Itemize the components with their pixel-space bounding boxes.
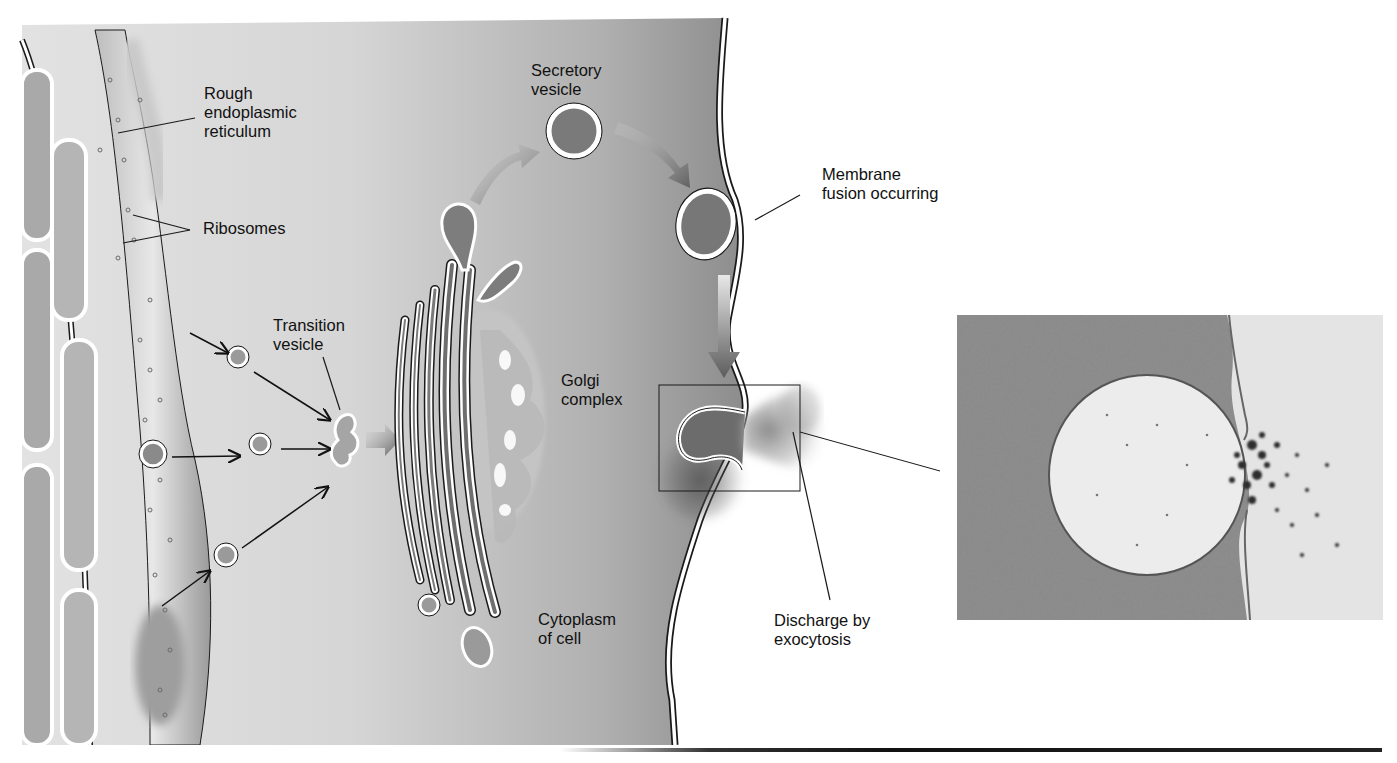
label-cytoplasm: Cytoplasm of cell: [538, 610, 616, 648]
figure: Rough endoplasmic reticulum Ribosomes Tr…: [0, 0, 1397, 763]
label-exocytosis: Discharge by exocytosis: [774, 611, 870, 649]
label-secretory-vesicle: Secretory vesicle: [531, 61, 602, 99]
label-ribosomes: Ribosomes: [203, 219, 286, 238]
label-membrane-fusion: Membrane fusion occurring: [822, 165, 938, 203]
label-rough-er: Rough endoplasmic reticulum: [204, 84, 297, 141]
label-golgi-complex: Golgi complex: [561, 371, 622, 409]
label-transition-vesicle: Transition vesicle: [273, 316, 345, 354]
electron-micrograph: [957, 315, 1383, 620]
bottom-rule: [560, 748, 1382, 752]
secretory-vesicle: [546, 103, 602, 159]
